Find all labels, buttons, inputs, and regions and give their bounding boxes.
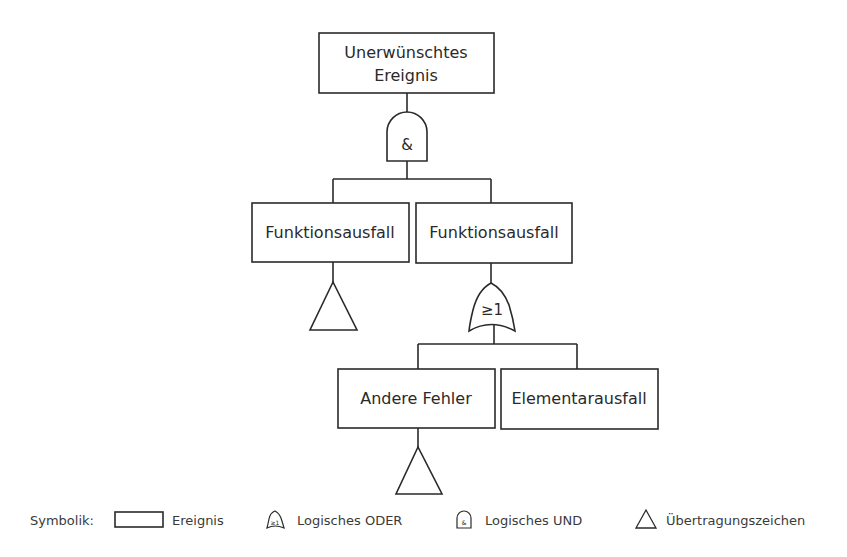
- or-gate-label: ≥1: [481, 301, 503, 319]
- legend-label-transfer: Übertragungszeichen: [666, 512, 805, 528]
- legend: Symbolik: Ereignis ≥1 Logisches ODER & L…: [30, 510, 805, 528]
- elementary-failure-event: Elementarausfall: [501, 369, 658, 429]
- and-gate-label: &: [401, 136, 413, 154]
- and-gate-icon: &: [457, 511, 471, 528]
- other-errors-event: Andere Fehler: [338, 369, 495, 428]
- or-gate: ≥1: [469, 283, 515, 331]
- legend-label-event: Ereignis: [172, 513, 224, 528]
- transfer-triangle-icon: [636, 510, 656, 528]
- or-gate-icon: ≥1: [267, 511, 284, 528]
- transfer-triangle-icon: [310, 282, 357, 330]
- and-gate: &: [387, 112, 427, 161]
- top-event-label-line2: Ereignis: [374, 66, 438, 85]
- left-function-failure-event: Funktionsausfall: [252, 203, 409, 262]
- top-event: Unerwünschtes Ereignis: [319, 33, 494, 93]
- legend-label-or: Logisches ODER: [297, 513, 402, 528]
- event-rectangle-icon: [115, 512, 163, 527]
- other-errors-label: Andere Fehler: [360, 389, 472, 408]
- elementary-failure-label: Elementarausfall: [511, 389, 646, 408]
- top-event-label-line1: Unerwünschtes: [344, 43, 467, 62]
- fault-tree-diagram: Unerwünschtes Ereignis & Funktionsausfal…: [0, 0, 847, 557]
- right-event-label: Funktionsausfall: [429, 223, 558, 242]
- legend-title: Symbolik:: [30, 513, 94, 528]
- or-gate-icon-label: ≥1: [271, 519, 280, 526]
- transfer-triangle-icon: [396, 447, 442, 494]
- right-function-failure-event: Funktionsausfall: [416, 203, 572, 263]
- and-gate-icon-label: &: [462, 519, 467, 526]
- legend-label-and: Logisches UND: [485, 513, 582, 528]
- left-event-label: Funktionsausfall: [265, 223, 394, 242]
